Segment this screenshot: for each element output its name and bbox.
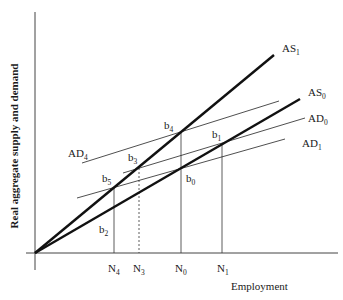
ad0-line bbox=[123, 118, 305, 173]
point-b0-label: b0 bbox=[186, 172, 196, 187]
y-axis-title: Real aggregate supply and demand bbox=[8, 64, 20, 229]
n3-label: N3 bbox=[133, 262, 145, 277]
point-b4-label: b4 bbox=[164, 119, 174, 134]
as0-label: AS0 bbox=[308, 86, 326, 101]
n4-label: N4 bbox=[108, 262, 120, 277]
n0-label: N0 bbox=[175, 262, 187, 277]
x-axis-title: Employment bbox=[231, 280, 288, 292]
ad0-label: AD0 bbox=[308, 112, 328, 127]
ad4-label: AD4 bbox=[68, 147, 88, 162]
diagram-canvas: AS1 AS0 AD0 AD1 AD4 b0 b1 b2 b3 b4 b5 N4… bbox=[0, 0, 343, 300]
n1-label: N1 bbox=[217, 262, 229, 277]
point-b3-label: b3 bbox=[128, 151, 138, 166]
point-b1-label: b1 bbox=[212, 128, 222, 143]
point-b2-label: b2 bbox=[99, 223, 109, 238]
point-b5-label: b5 bbox=[102, 172, 112, 187]
ad1-label: AD1 bbox=[302, 137, 322, 152]
as1-label: AS1 bbox=[282, 42, 300, 57]
